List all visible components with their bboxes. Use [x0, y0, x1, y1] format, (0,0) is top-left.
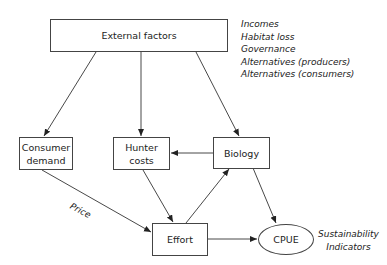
- edge-biology-cpue: [253, 168, 276, 223]
- node-cpue: CPUE: [258, 224, 314, 255]
- node-effort: Effort: [152, 223, 208, 256]
- edge-external-consumer: [44, 52, 96, 136]
- edge-consumer-effort: [42, 170, 151, 232]
- list-item: Alternatives (consumers): [241, 68, 354, 81]
- node-label-line: demand: [26, 154, 65, 167]
- node-label-line: Hunter: [125, 141, 158, 154]
- node-label: Biology: [224, 147, 259, 160]
- external-factor-list: Incomes Habitat loss Governance Alternat…: [241, 18, 354, 81]
- node-label: External factors: [101, 29, 176, 42]
- list-item: Incomes: [241, 18, 354, 31]
- node-hunter-costs: Hunter costs: [113, 137, 170, 170]
- edge-effort-biology: [186, 169, 229, 223]
- node-label: Effort: [167, 233, 193, 246]
- node-label: CPUE: [273, 234, 298, 245]
- list-item: Habitat loss: [241, 31, 354, 44]
- node-external-factors: External factors: [50, 19, 228, 52]
- label-line: Indicators: [318, 241, 379, 254]
- node-label-line: costs: [129, 154, 154, 167]
- sustainability-indicators-label: Sustainability Indicators: [318, 228, 379, 253]
- edge-external-biology: [196, 52, 239, 136]
- label-line: Sustainability: [318, 228, 379, 241]
- edge-hunter-effort: [143, 170, 173, 222]
- list-item: Governance: [241, 43, 354, 56]
- node-consumer-demand: Consumer demand: [19, 137, 73, 170]
- node-biology: Biology: [213, 137, 270, 169]
- list-item: Alternatives (producers): [241, 56, 354, 69]
- node-label-line: Consumer: [22, 141, 70, 154]
